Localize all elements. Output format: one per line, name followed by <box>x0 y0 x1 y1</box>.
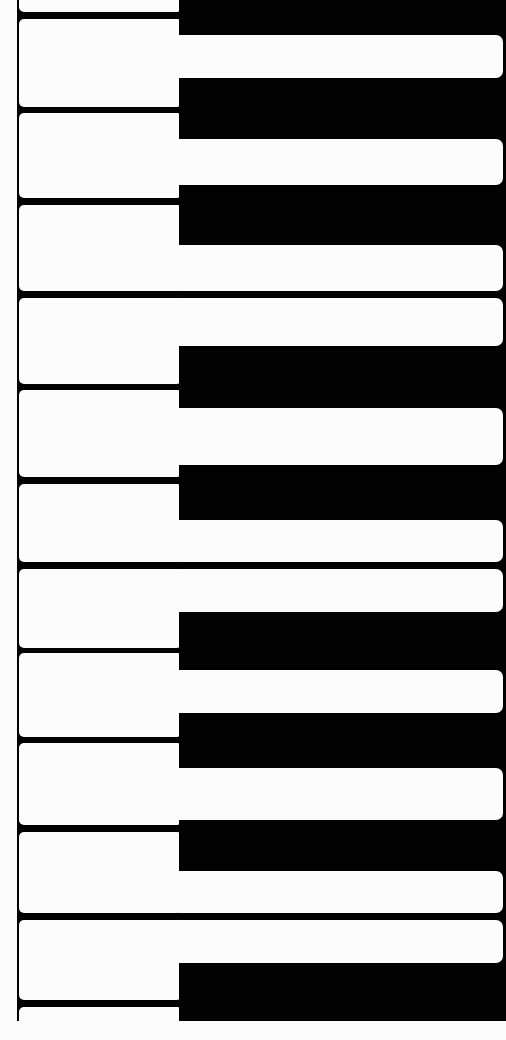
white-key-front <box>19 113 182 198</box>
white-key-front <box>19 832 182 913</box>
white-key-front <box>19 569 182 648</box>
white-key-back <box>178 920 503 963</box>
black-key <box>179 713 506 768</box>
white-key-back <box>178 245 503 291</box>
white-key-back <box>178 298 503 346</box>
white-key-front <box>19 743 182 825</box>
white-key-front <box>19 298 182 384</box>
black-key <box>179 346 506 408</box>
white-key-back <box>178 139 503 185</box>
white-key-front <box>19 920 182 1000</box>
white-key-back <box>178 35 503 78</box>
black-key <box>179 465 506 520</box>
white-key-back <box>178 569 503 612</box>
white-key-front <box>19 1007 182 1040</box>
white-key-back <box>178 871 503 913</box>
white-key-back <box>178 408 503 465</box>
white-key-front <box>19 19 182 107</box>
black-key <box>179 185 506 245</box>
black-key <box>179 820 506 871</box>
piano-keyboard <box>17 0 506 1021</box>
black-key <box>179 0 506 35</box>
white-key-back <box>178 670 503 713</box>
white-key-front <box>19 653 182 737</box>
white-key-front <box>19 390 182 477</box>
white-key-front <box>19 205 182 291</box>
black-key <box>179 612 506 670</box>
black-key <box>179 78 506 139</box>
white-key-back <box>178 768 503 820</box>
white-key-front <box>19 0 182 12</box>
white-key-front <box>19 484 182 562</box>
white-key-back <box>178 520 503 562</box>
black-key <box>179 963 506 1021</box>
